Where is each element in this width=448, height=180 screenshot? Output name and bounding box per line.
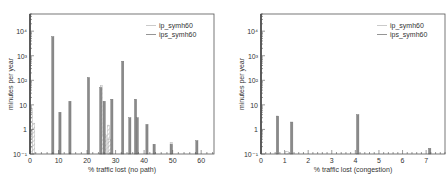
y-tick-label: 10³ [248, 53, 259, 60]
y-tick-label: 10² [17, 77, 28, 84]
bar [428, 148, 430, 154]
x-tick-label: 3 [330, 157, 334, 164]
y-tick-label: 1 [254, 126, 258, 133]
bar [196, 141, 198, 154]
legend-entry: ip_symh60 [390, 22, 424, 30]
bar [59, 112, 61, 154]
legend-entry: ip_symh60 [159, 22, 193, 30]
figure: 10⁻¹11010²10³10⁴0102030405060% traffic l… [0, 0, 448, 180]
series-ips_symh60 [52, 37, 198, 154]
bar [276, 116, 278, 154]
legend-entry: ips_symh60 [159, 31, 196, 39]
y-tick-label: 10² [248, 77, 259, 84]
x-tick-label: 5 [377, 157, 381, 164]
bar [153, 144, 155, 154]
bar [290, 122, 292, 154]
bar [357, 115, 359, 154]
chart-panel-no-path: 10⁻¹11010²10³10⁴0102030405060% traffic l… [7, 14, 214, 174]
x-tick-label: 20 [83, 157, 91, 164]
bar [146, 124, 148, 154]
x-tick-label: 30 [112, 157, 120, 164]
y-tick-label: 10 [19, 102, 27, 109]
bar [136, 118, 138, 154]
x-tick-label: 0 [28, 157, 32, 164]
y-axis-label: minutes per year [238, 57, 246, 110]
x-axis-label: % traffic lost (no path) [88, 166, 156, 174]
y-tick-label: 1 [23, 126, 27, 133]
y-tick-label: 10⁻¹ [13, 151, 28, 158]
legend-entry: ips_symh60 [390, 31, 427, 39]
bar [111, 99, 113, 154]
x-tick-label: 2 [306, 157, 310, 164]
bar [129, 118, 131, 154]
x-tick-label: 6 [401, 157, 405, 164]
x-tick-label: 40 [140, 157, 148, 164]
bar [170, 144, 172, 154]
x-tick-label: 60 [197, 157, 205, 164]
x-tick-label: 10 [55, 157, 63, 164]
chart-panel-congestion: 10⁻¹11010²10³10⁴01234567% traffic lost (… [238, 14, 445, 174]
bar [33, 123, 35, 154]
bar [87, 78, 89, 155]
y-tick-label: 10⁴ [247, 28, 258, 35]
y-tick-label: 10⁻¹ [244, 151, 259, 158]
y-tick-label: 10³ [17, 53, 28, 60]
x-tick-label: 1 [283, 157, 287, 164]
bar [52, 37, 54, 154]
series-ip_symh60 [286, 151, 288, 154]
y-tick-label: 10 [250, 102, 258, 109]
bar [100, 88, 102, 154]
bar [286, 151, 288, 154]
x-tick-label: 4 [353, 157, 357, 164]
bar [122, 61, 124, 154]
bar [103, 101, 105, 154]
chart-canvas: 10⁻¹11010²10³10⁴0102030405060% traffic l… [0, 0, 448, 180]
legend: ip_symh60ips_symh60 [377, 22, 427, 39]
series-ips_symh60 [276, 115, 431, 154]
legend: ip_symh60ips_symh60 [146, 22, 196, 39]
x-tick-label: 50 [169, 157, 177, 164]
x-tick-label: 7 [424, 157, 428, 164]
y-axis-label: minutes per year [7, 57, 15, 110]
y-tick-label: 10⁴ [16, 28, 27, 35]
x-tick-label: 0 [259, 157, 263, 164]
x-axis-label: % traffic lost (congestion) [314, 166, 392, 174]
bar [69, 101, 71, 154]
